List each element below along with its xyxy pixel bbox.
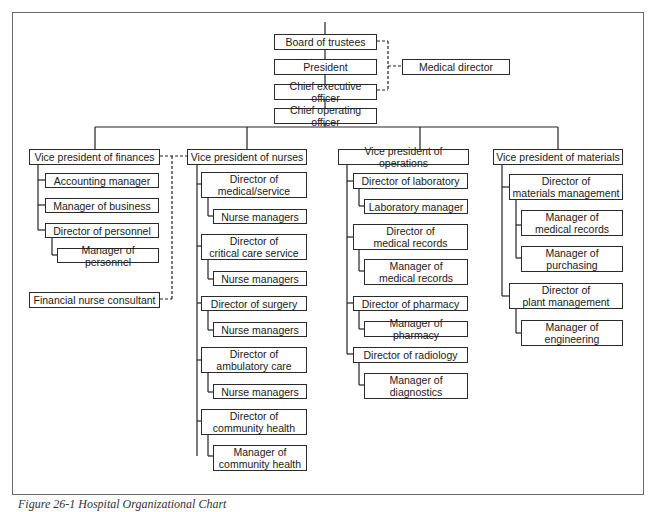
director-materials-management-box: Director of materials management	[509, 174, 623, 200]
director-of-personnel-box: Director of personnel	[45, 223, 159, 238]
board-of-trustees-box: Board of trustees	[274, 34, 377, 50]
director-radiology-box: Director of radiology	[353, 347, 468, 363]
director-community-health-box: Director of community health	[201, 409, 307, 435]
manager-diagnostics-box: Manager of diagnostics	[364, 373, 468, 399]
director-laboratory-box: Director of laboratory	[353, 173, 468, 189]
vp-operations-box: Vice president of operations	[338, 149, 469, 165]
nurse-managers-box: Nurse managers	[213, 209, 307, 224]
laboratory-manager-box: Laboratory manager	[364, 199, 468, 214]
ceo-box: Chief executive officer	[274, 84, 377, 100]
director-critical-care-box: Director of critical care service	[201, 234, 307, 260]
nurse-managers-box: Nurse managers	[213, 271, 307, 286]
manager-purchasing-box: Manager of purchasing	[521, 246, 623, 272]
manager-pharmacy-box: Manager of pharmacy	[364, 321, 468, 337]
nurse-managers-box: Nurse managers	[213, 384, 307, 399]
coo-box: Chief operating officer	[274, 108, 377, 124]
vp-nurses-box: Vice president of nurses	[187, 149, 307, 165]
manager-engineering-box: Manager of engineering	[521, 320, 623, 346]
director-plant-management-box: Director of plant management	[509, 283, 623, 309]
director-medical-service-box: Director of medical/service	[201, 172, 307, 198]
director-ambulatory-care-box: Director of ambulatory care	[201, 347, 307, 373]
director-surgery-box: Director of surgery	[201, 296, 307, 311]
director-medical-records-box: Director of medical records	[353, 224, 468, 250]
accounting-manager-box: Accounting manager	[45, 173, 159, 188]
financial-nurse-consultant-box: Financial nurse consultant	[29, 292, 160, 308]
manager-community-health-box: Manager of community health	[213, 445, 307, 471]
manager-of-personnel-box: Manager of personnel	[57, 248, 159, 263]
director-pharmacy-box: Director of pharmacy	[353, 296, 468, 311]
president-box: President	[274, 59, 377, 75]
vp-finances-box: Vice president of finances	[29, 149, 160, 165]
manager-medical-records-box: Manager of medical records	[521, 210, 623, 236]
manager-of-business-box: Manager of business	[45, 198, 159, 213]
nurse-managers-box: Nurse managers	[213, 322, 307, 337]
figure-caption: Figure 26-1 Hospital Organizational Char…	[18, 497, 226, 512]
vp-materials-box: Vice president of materials	[493, 149, 623, 165]
medical-director-box: Medical director	[402, 59, 510, 75]
manager-medical-records-box: Manager of medical records	[364, 259, 468, 285]
